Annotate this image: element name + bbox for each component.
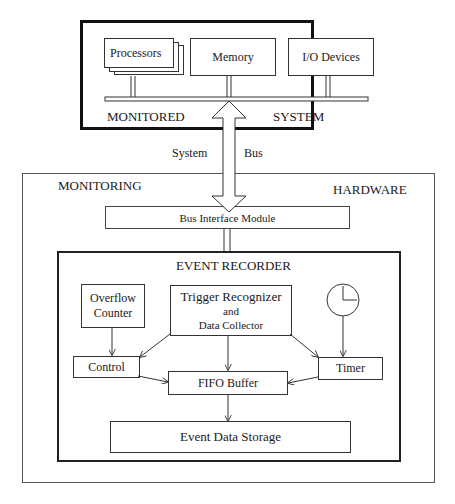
system-bus-arrow (212, 101, 246, 212)
connector-lines (0, 0, 455, 504)
clock-icon (327, 284, 359, 316)
system-bus-bar (105, 97, 368, 101)
